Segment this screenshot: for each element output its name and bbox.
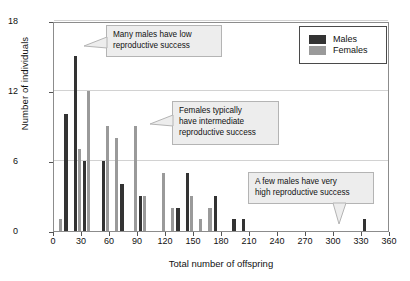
bar-males [83,161,86,231]
x-tick-mark [81,232,82,236]
y-tick-label: 18 [0,17,18,26]
bar-males [120,184,123,231]
x-tick-mark [193,232,194,236]
x-tick-label: 0 [38,236,68,246]
bar-males [214,196,217,231]
annotation-1-line-2: reproductive success [113,41,215,52]
y-tick-label: 0 [0,227,18,236]
gridline [54,20,388,21]
bar-males [102,161,105,231]
x-tick-mark [249,232,250,236]
bar-males [363,219,366,231]
annotation-2-tail-icon [150,114,174,130]
y-axis-title: Number of individuals [19,4,30,164]
legend-item-females: Females [309,46,379,55]
x-tick-mark [361,232,362,236]
x-tick-mark [137,232,138,236]
annotation-2-line-2: have intermediate [179,117,272,128]
bar-females [162,173,165,231]
y-tick-mark [49,162,53,163]
bar-males [186,173,189,231]
bar-females [171,208,174,231]
x-tick-mark [305,232,306,236]
annotation-many-males-low: Many males have low reproductive success [106,25,222,57]
x-tick-mark [109,232,110,236]
bar-females [199,219,202,231]
x-tick-mark [389,232,390,236]
y-tick-mark [49,22,53,23]
chart-legend: Males Females [299,26,387,64]
x-tick-mark [165,232,166,236]
y-tick-label: 6 [0,157,18,166]
bar-females [59,219,62,231]
chart-container: Number of individuals Total number of of… [0,0,410,281]
x-tick-label: 330 [346,236,376,246]
bar-females [78,149,81,231]
bar-males [74,56,77,231]
bar-females [115,138,118,231]
legend-swatch-males-icon [309,35,326,44]
bar-males [176,208,179,231]
bar-females [143,196,146,231]
x-tick-mark [277,232,278,236]
bar-females [134,126,137,231]
annotation-2-line-3: reproductive success [179,128,272,139]
x-tick-label: 150 [178,236,208,246]
legend-label-females: Females [333,46,368,55]
legend-swatch-females-icon [309,46,326,55]
annotation-females-intermediate: Females typically have intermediate repr… [172,101,279,145]
x-tick-label: 300 [318,236,348,246]
bar-females [87,91,90,231]
x-tick-label: 90 [122,236,152,246]
x-tick-label: 180 [206,236,236,246]
annotation-few-males-high: A few males have very high reproductive … [248,172,374,204]
y-tick-label: 12 [0,87,18,96]
gridline [54,90,388,91]
legend-label-males: Males [333,35,357,44]
x-tick-label: 360 [374,236,404,246]
x-tick-mark [333,232,334,236]
y-tick-mark [49,92,53,93]
x-tick-mark [221,232,222,236]
x-tick-label: 270 [290,236,320,246]
x-axis-title: Total number of offspring [53,258,389,269]
bar-males [232,219,235,231]
legend-item-males: Males [309,35,379,44]
bar-males [139,196,142,231]
x-tick-label: 210 [234,236,264,246]
x-tick-label: 120 [150,236,180,246]
annotation-3-line-2: high reproductive success [255,188,367,199]
x-tick-label: 30 [66,236,96,246]
bar-females [106,126,109,231]
x-tick-mark [53,232,54,236]
bar-females [190,196,193,231]
bar-males [64,114,67,231]
bar-males [242,219,245,231]
annotation-3-tail-icon [332,203,348,225]
bar-females [208,208,211,231]
annotation-1-line-1: Many males have low [113,30,215,41]
x-tick-label: 240 [262,236,292,246]
x-tick-label: 60 [94,236,124,246]
annotation-3-line-1: A few males have very [255,177,367,188]
annotation-2-line-1: Females typically [179,106,272,117]
annotation-1-tail-icon [84,36,108,52]
